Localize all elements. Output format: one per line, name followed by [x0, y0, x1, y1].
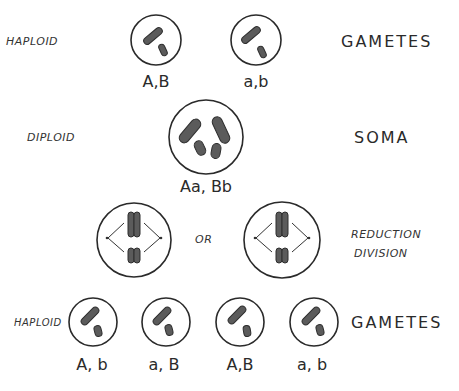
spindle-pole — [106, 237, 109, 240]
meiosis-diagram: HAPLOID GAMETES A,B a,b DIPLOID SOMA Aa,… — [0, 0, 459, 391]
chromosome-long — [80, 306, 101, 327]
diploid-cell — [169, 100, 243, 174]
chromosome-short — [93, 325, 103, 337]
gamete-cell-ab — [231, 15, 281, 65]
cell-membrane — [131, 15, 181, 65]
row4-right-label: GAMETES — [351, 313, 442, 332]
gamete-cell-Ab — [69, 298, 117, 346]
gamete-cell-aB — [142, 298, 190, 346]
chromosome-long — [211, 115, 232, 145]
gamete-cell-AB — [131, 15, 181, 65]
chromosome-long — [134, 212, 140, 237]
gamete-cell-ab-2 — [290, 298, 338, 346]
gamete-cell-AB-2 — [216, 298, 264, 346]
genotype-label: a, B — [149, 355, 180, 374]
chromosome-long — [128, 212, 134, 237]
genotype-label: A,B — [142, 72, 169, 91]
chromosome-long — [227, 305, 248, 326]
spindle-left — [108, 223, 124, 252]
division-cell-2 — [244, 202, 320, 278]
chromosome-short — [128, 248, 134, 263]
or-label: OR — [195, 233, 212, 246]
row4-left-label: HAPLOID — [14, 317, 62, 328]
chromosome-short — [164, 324, 174, 336]
cell-membrane — [216, 298, 264, 346]
division-label: DIVISION — [354, 247, 408, 260]
chromosome-short — [315, 324, 325, 336]
chromosome-short — [276, 248, 282, 263]
spindle-pole — [254, 237, 257, 240]
spindle-pole — [308, 237, 311, 240]
genotype-label: a,b — [243, 72, 268, 91]
cell-membrane — [231, 15, 281, 65]
row2-right-label: SOMA — [354, 128, 410, 147]
spindle-left — [256, 223, 272, 252]
row1-right-label: GAMETES — [341, 32, 432, 51]
chromosome-short — [210, 143, 221, 159]
genotype-label: A,B — [226, 355, 253, 374]
chromosome-long — [282, 212, 288, 237]
chromosome-long — [240, 25, 261, 45]
chromosome-long — [276, 212, 282, 237]
genotype-label: a, b — [297, 355, 327, 374]
row1-left-label: HAPLOID — [6, 35, 58, 48]
reduction-label: REDUCTION — [351, 228, 421, 241]
chromosome-short — [193, 139, 207, 156]
row2-left-label: DIPLOID — [27, 131, 75, 144]
chromosome-long — [152, 306, 173, 327]
chromosome-short — [134, 248, 140, 263]
chromosome-short — [158, 43, 169, 56]
spindle-right — [144, 223, 160, 252]
division-cell-1 — [97, 203, 171, 277]
chromosome-long — [142, 26, 163, 46]
spindle-right — [292, 223, 308, 252]
spindle-pole — [160, 237, 163, 240]
cell-membrane — [290, 298, 338, 346]
chromosome-short — [282, 248, 288, 263]
chromosome-long — [301, 306, 322, 327]
chromosome-short — [243, 325, 252, 337]
cell-membrane — [69, 298, 117, 346]
cell-membrane — [142, 298, 190, 346]
genotype-label: A, b — [76, 355, 107, 374]
chromosome-short — [257, 45, 268, 58]
genotype-label: Aa, Bb — [180, 177, 232, 196]
